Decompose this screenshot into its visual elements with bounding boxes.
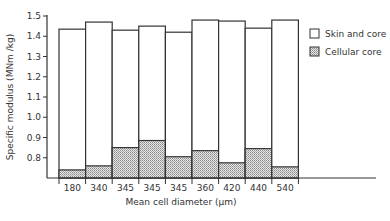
bar-skin-and-core: [165, 32, 192, 178]
x-tick-label: 420: [223, 183, 240, 193]
y-tick-label: 1.2: [27, 72, 41, 82]
x-tick-label: 345: [117, 183, 134, 193]
x-tick-label: 540: [277, 183, 294, 193]
bar-cellular-core: [139, 141, 166, 178]
bar-cellular-core: [59, 170, 86, 178]
bar-cellular-core: [86, 166, 113, 178]
y-tick-label: 0.9: [27, 133, 42, 143]
legend-label-cellular-core: Cellular core: [325, 47, 382, 57]
legend: Skin and core Cellular core: [310, 29, 387, 57]
legend-swatch-cellular-core: [310, 47, 319, 56]
bar-cellular-core: [112, 148, 139, 178]
y-tick-label: 1.4: [27, 31, 42, 41]
x-tick-label: 360: [197, 183, 214, 193]
y-tick-label: 1.5: [27, 11, 41, 21]
bar-cellular-core: [192, 151, 219, 178]
bar-skin-and-core: [59, 29, 86, 178]
y-tick-label: 1.1: [27, 92, 41, 102]
bars-group: [59, 20, 298, 178]
x-tick-label: 180: [64, 183, 81, 193]
bar-cellular-core: [245, 149, 272, 178]
x-tick-label: 345: [144, 183, 161, 193]
y-axis-title: Specific modulus (MNm /kg): [5, 34, 15, 160]
bar-skin-and-core: [272, 20, 299, 178]
x-tick-label: 345: [170, 183, 187, 193]
x-tick-label: 440: [250, 183, 267, 193]
y-tick-label: 1.3: [27, 52, 41, 62]
legend-label-skin-and-core: Skin and core: [325, 29, 387, 39]
y-tick-label: 0.8: [27, 153, 42, 163]
bar-skin-and-core: [219, 21, 246, 178]
bar-chart: 0.80.91.01.11.21.31.41.5 180340345345345…: [0, 0, 390, 221]
bar-cellular-core: [219, 163, 246, 178]
bar-skin-and-core: [86, 22, 113, 178]
x-ticks: 180340345345345360420440540: [59, 178, 298, 193]
bar-cellular-core: [165, 157, 192, 178]
y-tick-label: 1.0: [27, 112, 42, 122]
bar-cellular-core: [272, 167, 299, 178]
x-axis-title: Mean cell diameter (µm): [126, 197, 237, 207]
x-tick-label: 340: [90, 183, 107, 193]
y-ticks: 0.80.91.01.11.21.31.41.5: [27, 11, 47, 163]
legend-swatch-skin-and-core: [310, 29, 319, 38]
